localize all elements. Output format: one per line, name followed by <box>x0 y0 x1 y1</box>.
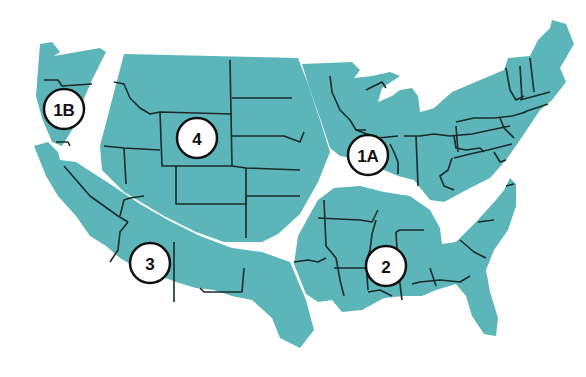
label-1A-text: 1A <box>357 147 379 166</box>
label-1A: 1A <box>348 135 388 175</box>
label-1B: 1B <box>44 89 84 129</box>
label-3-text: 3 <box>145 255 154 274</box>
label-4-text: 4 <box>192 130 202 149</box>
us-zone-map: 1B 4 1A 3 2 <box>0 0 586 377</box>
label-1B-text: 1B <box>53 101 75 120</box>
label-4: 4 <box>177 118 217 158</box>
zone-1A <box>302 20 574 202</box>
label-2: 2 <box>366 246 406 286</box>
label-3: 3 <box>130 243 170 283</box>
label-2-text: 2 <box>381 258 390 277</box>
